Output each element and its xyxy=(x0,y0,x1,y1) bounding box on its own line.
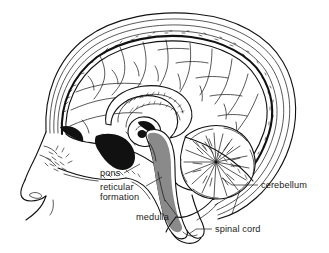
label-cerebellum: cerebellum xyxy=(261,180,307,190)
brain-sagittal-illustration: pons reticular formation medulla cerebel… xyxy=(0,0,329,253)
midbrain-aqueduct xyxy=(138,130,147,138)
label-spinal-cord: spinal cord xyxy=(215,224,261,234)
label-pons: pons xyxy=(100,168,121,178)
label-reticular-formation-line2: formation xyxy=(100,192,139,202)
cerebellum xyxy=(180,125,255,199)
label-medulla: medulla xyxy=(136,212,170,222)
label-reticular-formation-line1: reticular xyxy=(100,182,134,192)
brain-diagram-figure: pons reticular formation medulla cerebel… xyxy=(0,0,329,253)
